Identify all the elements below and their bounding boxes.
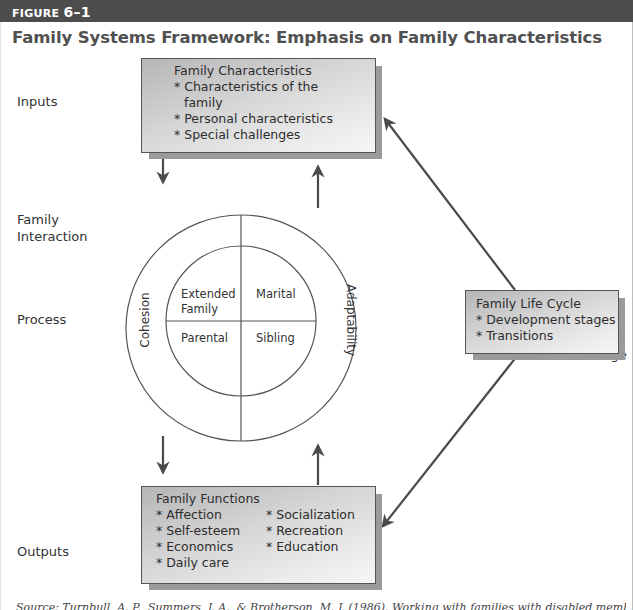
inputs-item: family <box>174 95 375 111</box>
quadrant-parental: Parental <box>181 331 228 346</box>
inputs-item: * Characteristics of the <box>174 79 375 95</box>
family-functions-box: Family Functions * Affection * Self-este… <box>141 486 376 584</box>
family-life-cycle-title: Family Life Cycle <box>476 296 618 312</box>
source-citation: Source: Turnbull, A. P., Summers, J. A.,… <box>16 601 626 610</box>
label-cohesion: Cohesion <box>138 292 152 347</box>
life-cycle-item: * Transitions <box>476 328 618 344</box>
quadrant-sibling: Sibling <box>256 331 295 346</box>
quadrant-extended-family-line2: Family <box>181 302 236 317</box>
life-cycle-item: * Development stages <box>476 312 618 328</box>
function-item: * Education <box>266 539 355 555</box>
quadrant-extended-family-line1: Extended <box>181 287 236 302</box>
family-functions-title: Family Functions <box>156 491 375 507</box>
family-functions-columns: * Affection * Self-esteem * Economics * … <box>156 507 375 571</box>
function-item: * Daily care <box>156 555 266 571</box>
inputs-item: * Personal characteristics <box>174 111 375 127</box>
family-life-cycle-box: Family Life Cycle * Development stages *… <box>465 290 619 354</box>
function-item: * Recreation <box>266 523 355 539</box>
label-adaptability: Adaptability <box>344 284 358 356</box>
functions-column-1: * Affection * Self-esteem * Economics * … <box>156 507 266 571</box>
function-item: * Economics <box>156 539 266 555</box>
family-characteristics-title: Family Characteristics <box>174 63 375 79</box>
inputs-item: * Special challenges <box>174 127 375 143</box>
quadrant-extended-family: Extended Family <box>181 287 236 317</box>
arrow-lifecycle-to-inputs <box>385 119 515 290</box>
function-item: * Affection <box>156 507 266 523</box>
family-characteristics-box: Family Characteristics * Characteristics… <box>141 58 376 153</box>
function-item: * Self-esteem <box>156 523 266 539</box>
arrow-lifecycle-to-outputs <box>383 356 517 526</box>
function-item: * Socialization <box>266 507 355 523</box>
functions-column-2: * Socialization * Recreation * Education <box>266 507 355 571</box>
quadrant-marital: Marital <box>256 287 296 302</box>
